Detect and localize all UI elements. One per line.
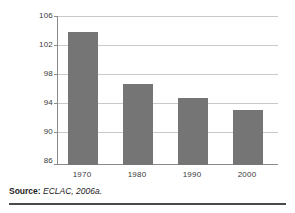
y-tick-mark	[54, 103, 58, 104]
y-tick-mark	[54, 16, 58, 17]
y-axis-title-wrapper: Men per 100 women	[0, 16, 30, 165]
plot-area	[57, 16, 277, 165]
y-tick-label: 90	[44, 128, 53, 136]
x-tick-label-1990: 1990	[172, 170, 212, 179]
y-tick-label: 102	[39, 41, 53, 49]
source-label: Source:	[9, 186, 41, 196]
source-note: Source: ECLAC, 2006a.	[9, 186, 102, 196]
gridline-106	[58, 16, 278, 17]
x-tick-label-1970: 1970	[62, 170, 102, 179]
y-tick-label: 94	[44, 99, 53, 107]
x-tick-label-1980: 1980	[117, 170, 157, 179]
y-tick-mark	[54, 132, 58, 133]
bar-2000[interactable]	[233, 110, 263, 165]
bar-1990[interactable]	[178, 98, 208, 165]
figure-container: Men per 100 women 106 102 98 94 90 86 19…	[0, 0, 295, 213]
x-tick-label-2000: 2000	[227, 170, 267, 179]
bar-1980[interactable]	[123, 84, 153, 165]
y-tick-mark	[54, 74, 58, 75]
y-tick-label: 106	[39, 12, 53, 20]
y-tick-mark	[54, 45, 58, 46]
y-tick-mark	[54, 164, 58, 165]
y-tick-label: 86	[44, 157, 53, 165]
bottom-divider	[9, 203, 286, 205]
bar-1970[interactable]	[68, 32, 98, 165]
y-tick-label: 98	[44, 70, 53, 78]
source-text: ECLAC, 2006a.	[43, 186, 102, 196]
